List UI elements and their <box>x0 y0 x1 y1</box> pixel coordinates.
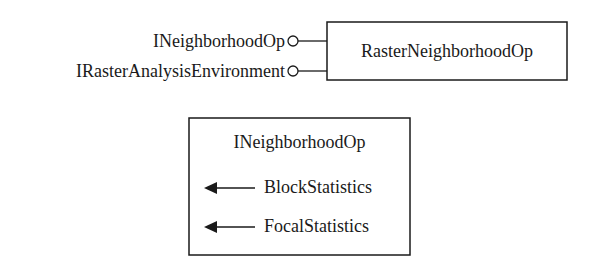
method-label: BlockStatistics <box>264 177 372 197</box>
interface-lollipop-icon <box>288 36 298 46</box>
interface-label: IRasterAnalysisEnvironment <box>76 61 285 81</box>
interface-lollipop-icon <box>288 66 298 76</box>
class-box-title: RasterNeighborhoodOp <box>327 41 567 61</box>
method-arrow-icon <box>204 182 255 194</box>
interface-label: INeighborhoodOp <box>153 31 285 51</box>
interface-box-title: INeighborhoodOp <box>189 132 410 152</box>
method-label: FocalStatistics <box>264 216 369 236</box>
method-arrow-icon <box>204 221 255 233</box>
